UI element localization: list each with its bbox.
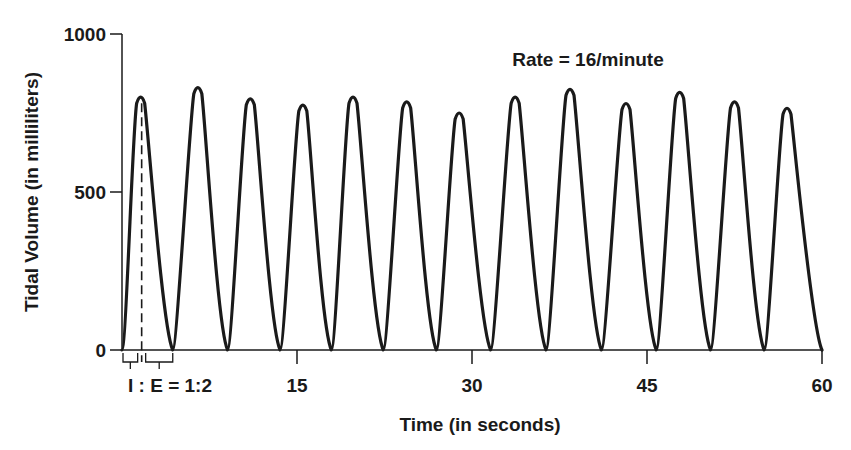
inspiration-bracket	[123, 353, 138, 369]
ie-ratio-annotation: I : E = 1:2	[128, 375, 212, 396]
tidal-volume-chart: Rate = 16/minute I : E = 1:2 Time (in se…	[0, 0, 851, 450]
x-tick-label: 60	[811, 375, 832, 396]
rate-annotation: Rate = 16/minute	[512, 49, 664, 70]
x-axis-label: Time (in seconds)	[399, 414, 560, 435]
x-tick-label: 15	[286, 375, 308, 396]
y-tick-label: 500	[74, 182, 106, 203]
x-tick-labels: 15304560	[286, 375, 832, 396]
ie-ratio-brackets	[123, 353, 173, 369]
expiration-bracket	[146, 353, 173, 369]
tidal-volume-line	[122, 88, 822, 350]
y-tick-label: 1000	[64, 24, 106, 45]
y-tick-label: 0	[95, 340, 106, 361]
x-tick-label: 30	[461, 375, 482, 396]
y-tick-labels: 05001000	[64, 24, 106, 361]
y-axis-label: Tidal Volume (in milliliters)	[21, 72, 42, 312]
x-tick-label: 45	[636, 375, 658, 396]
